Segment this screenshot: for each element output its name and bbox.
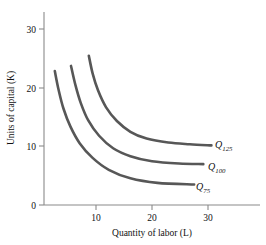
curve-label-q75: Q75 xyxy=(196,181,211,194)
x-tick-label-20: 20 xyxy=(147,213,157,223)
y-tick-label-30: 30 xyxy=(27,25,37,35)
y-axis-ticks xyxy=(39,29,44,205)
x-axis-ticks xyxy=(96,205,208,210)
x-axis-title: Quantity of labor (L) xyxy=(112,228,192,239)
y-axis-title-text: Units of capital (K) xyxy=(6,71,17,145)
x-tick-label-10: 10 xyxy=(91,213,101,223)
y-tick-label-20: 20 xyxy=(27,84,37,94)
isoquant-curves xyxy=(55,56,212,185)
curve-label-q100: Q100 xyxy=(208,161,226,174)
isoquant-chart: 30 20 10 0 10 20 30 Q125 Q1 xyxy=(0,0,266,245)
y-axis-title: Units of capital (K) xyxy=(6,71,17,145)
curve-label-q125: Q125 xyxy=(215,139,233,152)
isoquant-curve-q125 xyxy=(89,56,212,146)
x-axis-tick-labels: 10 20 30 xyxy=(91,213,213,223)
x-tick-label-30: 30 xyxy=(203,213,213,223)
isoquant-curve-q100 xyxy=(71,66,203,164)
chart-canvas: 30 20 10 0 10 20 30 Q125 Q1 xyxy=(0,0,266,245)
x-axis-title-text: Quantity of labor (L) xyxy=(112,228,192,239)
y-tick-label-0: 0 xyxy=(31,201,36,211)
y-axis-tick-labels: 30 20 10 0 xyxy=(27,25,37,211)
isoquant-curve-labels: Q125 Q100 Q75 xyxy=(196,139,233,194)
y-tick-label-10: 10 xyxy=(27,142,37,152)
